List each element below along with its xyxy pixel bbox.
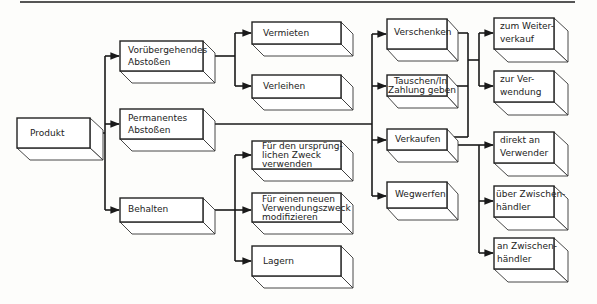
label-direkt-1: direkt an [500,135,540,146]
label-zurverwendung-1: zur Ver- [500,74,534,85]
label-behalten: Behalten [128,204,168,215]
box-produkt [17,118,103,160]
label-urspruenglich-3: verwenden [262,159,312,170]
label-voruebergehend-2: Abstoßen [128,57,171,68]
label-tauschen-2: Zahlung geben [388,85,456,96]
label-ueberzwischen-1: über Zwischen- [496,189,565,200]
label-anzwischen-1: an Zwischen- [497,241,557,252]
label-weiterverkauf-2: verkauf [500,34,534,45]
label-voruebergehend-1: Vorübergehendes [128,45,207,56]
label-wegwerfen: Wegwerfen [395,189,446,200]
box-wegwerfen [387,182,458,220]
label-zurverwendung-2: wendung [500,87,541,98]
label-weiterverkauf-1: zum Weiter- [500,21,554,32]
label-permanent-1: Permanentes [128,113,187,124]
label-vermieten: Vermieten [263,28,309,39]
box-lagern [252,246,353,288]
label-lagern: Lagern [263,256,294,267]
label-permanent-2: Abstoßen [128,125,171,136]
label-verleihen: Verleihen [263,81,305,92]
label-ueberzwischen-2: händler [496,202,530,213]
label-produkt: Produkt [30,128,64,139]
label-neuerzweck-3: modifizieren [262,212,318,223]
label-verkaufen: Verkaufen [395,134,440,145]
box-verschenken [387,19,458,61]
label-verschenken: Verschenken [394,27,451,38]
label-anzwischen-2: händler [497,254,531,265]
label-direkt-2: Verwender [500,148,548,159]
